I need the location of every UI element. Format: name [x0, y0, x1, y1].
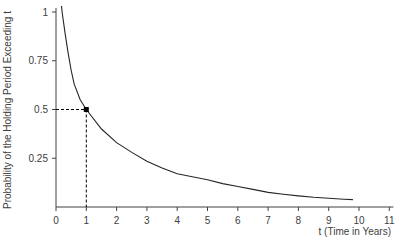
y-tick-label: 0.75: [29, 55, 49, 66]
y-tick-label: 0.25: [29, 153, 49, 164]
y-axis: 0.250.50.751: [29, 7, 56, 208]
x-tick-label: 10: [353, 215, 365, 226]
x-tick-label: 7: [265, 215, 271, 226]
x-tick-label: 11: [384, 215, 395, 226]
highlight-point: [84, 107, 89, 112]
x-tick-label: 0: [53, 215, 59, 226]
x-axis: 01234567891011: [53, 207, 395, 226]
y-tick-label: 0.5: [34, 104, 48, 115]
x-axis-title: t (Time in Years): [319, 226, 391, 237]
x-tick-label: 5: [205, 215, 211, 226]
y-axis-title: Probability of the Holding Period Exceed…: [2, 11, 13, 209]
x-tick-label: 2: [114, 215, 120, 226]
x-tick-label: 3: [144, 215, 150, 226]
survival-curve: [62, 6, 353, 200]
x-tick-label: 1: [84, 215, 90, 226]
x-tick-label: 4: [174, 215, 180, 226]
holding-period-chart: 0.250.50.751 01234567891011 Probability …: [0, 0, 403, 246]
guides: [56, 110, 86, 208]
x-tick-label: 9: [326, 215, 332, 226]
x-tick-label: 8: [296, 215, 302, 226]
y-tick-label: 1: [42, 7, 48, 18]
x-tick-label: 6: [235, 215, 241, 226]
